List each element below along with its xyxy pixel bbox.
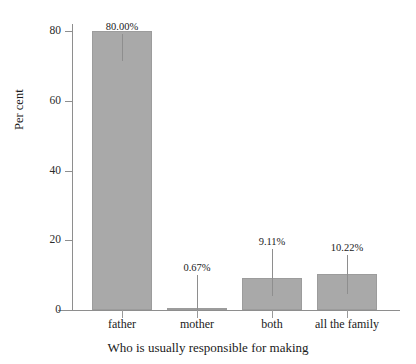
y-tick-mark bbox=[65, 240, 72, 241]
bar-value-label: 9.11% bbox=[232, 237, 312, 248]
bar bbox=[92, 31, 152, 310]
x-axis-title: Who is usually responsible for making bbox=[0, 341, 416, 354]
y-tick-mark bbox=[65, 310, 72, 311]
bar-chart: Per cent 020406080 80.00%0.67%9.11%10.22… bbox=[0, 0, 416, 364]
y-tick-label: 80 bbox=[50, 25, 62, 37]
y-tick-mark bbox=[65, 31, 72, 32]
label-leader-line bbox=[347, 255, 348, 294]
y-tick-label: 20 bbox=[50, 234, 62, 246]
y-tick-label: 0 bbox=[55, 304, 61, 316]
y-tick-mark bbox=[65, 171, 72, 172]
bar-value-label: 10.22% bbox=[307, 243, 387, 254]
bar-value-label: 0.67% bbox=[157, 263, 237, 274]
y-axis-line bbox=[72, 24, 73, 311]
y-tick-label: 60 bbox=[50, 95, 62, 107]
y-tick-mark bbox=[65, 101, 72, 102]
bar-value-label: 80.00% bbox=[82, 22, 162, 33]
label-leader-line bbox=[122, 34, 123, 61]
x-tick-label: all the family bbox=[297, 318, 397, 331]
label-leader-line bbox=[272, 249, 273, 296]
y-axis-title: Per cent bbox=[12, 112, 27, 130]
x-axis-line bbox=[58, 310, 400, 311]
y-tick-label: 40 bbox=[50, 165, 62, 177]
